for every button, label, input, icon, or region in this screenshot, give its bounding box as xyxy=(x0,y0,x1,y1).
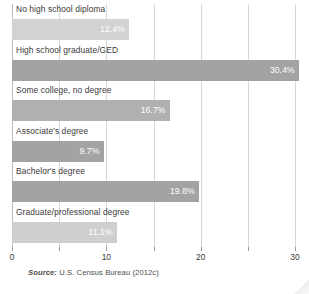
bar: 16.7% xyxy=(12,100,170,121)
bar-row: Associate's degree9.7% xyxy=(12,126,295,167)
bar-value-label: 12.4% xyxy=(100,19,125,40)
x-tick-label-10: 10 xyxy=(102,252,111,262)
category-label: Graduate/professional degree xyxy=(16,207,130,217)
bar: 30.4% xyxy=(12,60,299,81)
source-label: Source: xyxy=(28,268,57,277)
bar-row: Some college, no degree16.7% xyxy=(12,85,295,126)
x-tick-mark-25 xyxy=(248,247,249,251)
gridline-30 xyxy=(295,4,296,247)
x-tick-label-30: 30 xyxy=(290,252,299,262)
category-label: Associate's degree xyxy=(16,126,88,136)
bar-value-label: 30.4% xyxy=(270,60,295,81)
bar-row: Graduate/professional degree11.1% xyxy=(12,207,295,248)
bar: 12.4% xyxy=(12,19,129,40)
bar-row: High school graduate/GED30.4% xyxy=(12,45,295,86)
bar: 19.8% xyxy=(12,181,199,202)
x-tick-label-20: 20 xyxy=(196,252,205,262)
source-note: Source: U.S. Census Bureau (2012c) xyxy=(28,268,159,277)
x-axis: 0102030 xyxy=(12,247,295,263)
x-tick-mark-0 xyxy=(12,247,13,251)
bar-row: No high school diploma12.4% xyxy=(12,4,295,45)
bar-value-label: 16.7% xyxy=(141,100,166,121)
bar: 9.7% xyxy=(12,141,104,162)
x-tick-mark-20 xyxy=(201,247,202,251)
page-corner-artifact xyxy=(293,278,309,294)
bar-rows: No high school diploma12.4%High school g… xyxy=(12,4,295,247)
bar-chart-figure: No high school diploma12.4%High school g… xyxy=(0,0,309,294)
source-text: U.S. Census Bureau (2012c) xyxy=(57,268,159,277)
bar-value-label: 19.8% xyxy=(170,181,195,202)
x-tick-mark-10 xyxy=(106,247,107,251)
category-label: No high school diploma xyxy=(16,4,105,14)
bar-value-label: 11.1% xyxy=(88,222,112,243)
x-tick-label-0: 0 xyxy=(10,252,15,262)
plot-area: No high school diploma12.4%High school g… xyxy=(12,4,295,247)
x-tick-mark-30 xyxy=(295,247,296,251)
bar-row: Bachelor's degree19.8% xyxy=(12,166,295,207)
bar: 11.1% xyxy=(12,222,117,243)
category-label: High school graduate/GED xyxy=(16,45,118,55)
x-tick-mark-15 xyxy=(154,247,155,251)
bar-value-label: 9.7% xyxy=(80,141,100,162)
category-label: Some college, no degree xyxy=(16,85,111,95)
x-tick-mark-5 xyxy=(59,247,60,251)
category-label: Bachelor's degree xyxy=(16,166,85,176)
